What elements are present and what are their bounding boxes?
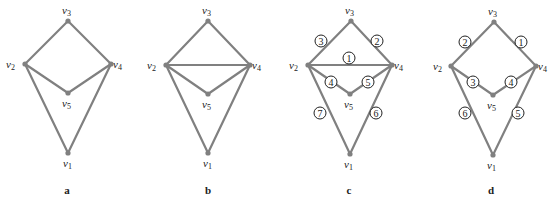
- panel-c: v1v2v3v4v51234567c: [289, 4, 403, 196]
- edge-number-text: 3: [319, 36, 324, 47]
- vertex-subscript: 5: [492, 104, 496, 113]
- vertex-subscript: 1: [492, 164, 496, 173]
- vertex-subscript: 4: [257, 64, 261, 73]
- vertex-label-v2: v2: [147, 59, 156, 73]
- edge-v3-v4: [208, 21, 250, 65]
- edge-number-label: 6: [370, 107, 382, 119]
- vertex-v2: [163, 62, 168, 67]
- edge-number-label: 2: [459, 36, 471, 48]
- edge-number-text: 3: [471, 77, 476, 88]
- vertex-subscript: 1: [68, 162, 72, 171]
- edge-number-text: 2: [463, 37, 468, 48]
- edge-number-label: 1: [515, 36, 527, 48]
- edge-v3-v4: [68, 21, 111, 64]
- vertex-v3: [65, 18, 70, 23]
- vertex-label-v4: v4: [394, 59, 403, 73]
- edge-number-text: 4: [509, 77, 514, 88]
- vertex-label-v4: v4: [113, 58, 122, 72]
- edge-number-text: 2: [375, 36, 380, 47]
- edge-number-text: 6: [463, 108, 468, 119]
- vertex-subscript: 4: [399, 64, 403, 73]
- vertex-subscript: 1: [208, 162, 212, 171]
- vertex-subscript: 2: [11, 63, 15, 72]
- vertex-subscript: 2: [294, 64, 298, 73]
- edge-number-label: 7: [314, 107, 326, 119]
- figure-canvas: v1v2v3v4v5av1v2v3v4v5bv1v2v3v4v51234567c…: [0, 0, 553, 200]
- edge-number-label: 6: [459, 107, 471, 119]
- edge-number-label: 3: [467, 76, 479, 88]
- edge-number-label: 4: [505, 76, 517, 88]
- vertex-label-v1: v1: [63, 157, 72, 171]
- vertex-v2: [22, 61, 27, 66]
- vertex-v5: [205, 91, 210, 96]
- vertex-label-v4: v4: [538, 60, 547, 74]
- vertex-label-v3: v3: [62, 4, 71, 18]
- edge-v2-v3: [166, 21, 208, 65]
- vertex-label-v5: v5: [487, 99, 496, 113]
- vertex-v2: [305, 62, 310, 67]
- edge-number-label: 3: [315, 35, 327, 47]
- panel-b: v1v2v3v4v5b: [147, 4, 261, 196]
- vertex-v1: [65, 150, 70, 155]
- vertex-subscript: 3: [350, 9, 354, 18]
- vertex-v3: [491, 19, 496, 24]
- vertex-label-v5: v5: [202, 98, 211, 112]
- edge-number-text: 7: [318, 108, 323, 119]
- vertex-label-v2: v2: [6, 58, 15, 72]
- panel-label-c: c: [347, 184, 352, 196]
- vertex-v5: [490, 92, 495, 97]
- edge-number-label: 4: [325, 76, 337, 88]
- vertex-label-v3: v3: [345, 4, 354, 18]
- vertex-subscript: 2: [438, 65, 442, 74]
- vertex-subscript: 3: [67, 9, 71, 18]
- edge-number-label: 5: [362, 76, 374, 88]
- vertex-v1: [490, 152, 495, 157]
- vertex-label-v1: v1: [203, 157, 212, 171]
- edge-number-text: 6: [374, 108, 379, 119]
- vertex-label-v3: v3: [202, 4, 211, 18]
- vertex-v5: [65, 90, 70, 95]
- vertex-subscript: 4: [118, 63, 122, 72]
- panel-a: v1v2v3v4v5a: [6, 4, 122, 196]
- panel-label-d: d: [488, 184, 494, 196]
- edge-number-text: 4: [329, 77, 334, 88]
- edge-number-text: 5: [516, 108, 521, 119]
- vertex-subscript: 3: [207, 9, 211, 18]
- edge-number-text: 1: [519, 37, 524, 48]
- vertex-label-v3: v3: [488, 5, 497, 19]
- vertex-v3: [205, 18, 210, 23]
- vertex-subscript: 5: [349, 103, 353, 112]
- edge-v2-v3: [25, 21, 68, 64]
- panel-label-a: a: [64, 184, 70, 196]
- vertex-v1: [347, 151, 352, 156]
- vertex-label-v2: v2: [289, 59, 298, 73]
- vertex-label-v5: v5: [344, 98, 353, 112]
- vertex-label-v2: v2: [433, 60, 442, 74]
- vertex-label-v1: v1: [487, 159, 496, 173]
- edge-number-text: 1: [347, 53, 352, 64]
- edge-number-label: 5: [512, 107, 524, 119]
- vertex-label-v1: v1: [344, 158, 353, 172]
- edge-number-label: 1: [343, 52, 355, 64]
- vertex-subscript: 5: [207, 103, 211, 112]
- vertex-subscript: 4: [543, 65, 547, 74]
- panel-label-b: b: [205, 184, 211, 196]
- panel-d: v1v2v3v4v5123456d: [433, 5, 547, 196]
- edge-number-text: 5: [366, 77, 371, 88]
- vertex-v1: [205, 150, 210, 155]
- vertex-v5: [347, 91, 352, 96]
- vertex-subscript: 3: [493, 10, 497, 19]
- vertex-subscript: 1: [349, 163, 353, 172]
- vertex-label-v5: v5: [62, 97, 71, 111]
- edge-number-label: 2: [371, 35, 383, 47]
- vertex-subscript: 5: [67, 102, 71, 111]
- graph-figure: v1v2v3v4v5av1v2v3v4v5bv1v2v3v4v51234567c…: [0, 0, 553, 200]
- vertex-v2: [448, 63, 453, 68]
- edge-v2-v3: [451, 22, 494, 66]
- vertex-subscript: 2: [152, 64, 156, 73]
- vertex-v3: [348, 18, 353, 23]
- vertex-label-v4: v4: [252, 59, 261, 73]
